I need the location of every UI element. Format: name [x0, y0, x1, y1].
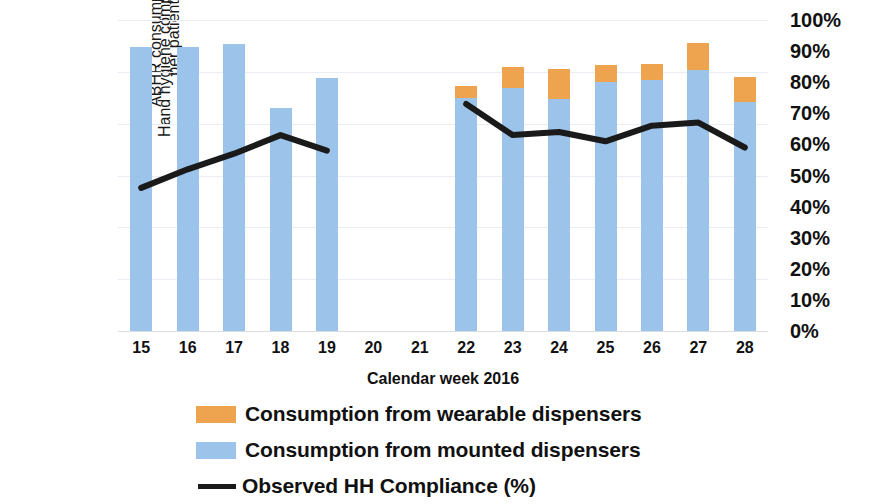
x-axis-tick-label: 25	[584, 340, 628, 356]
chart-legend: Consumption from wearable dispensersCons…	[196, 396, 756, 504]
gridline	[118, 331, 768, 332]
x-axis-tick-label: 22	[444, 340, 488, 356]
legend-item-label: Consumption from wearable dispensers	[245, 402, 642, 426]
x-axis-tick-label: 20	[351, 340, 395, 356]
x-axis-tick-label: 23	[491, 340, 535, 356]
blue-swatch	[196, 442, 236, 459]
right-axis-tick-label: 10%	[790, 290, 862, 310]
legend-item: Consumption from mounted dispensers	[196, 432, 756, 468]
orange-swatch	[196, 406, 236, 423]
legend-item: Observed HH Compliance (%)	[196, 468, 756, 504]
black-line-swatch	[198, 484, 236, 489]
x-axis-tick-label: 21	[398, 340, 442, 356]
right-axis-tick-label: 80%	[790, 72, 862, 92]
right-axis-tick-label: 0%	[790, 321, 862, 341]
compliance-line-series	[118, 20, 768, 331]
right-axis-tick-label: 20%	[790, 259, 862, 279]
x-axis-tick-label: 19	[305, 340, 349, 356]
x-axis-title: Calendar week 2016	[118, 370, 768, 388]
right-axis-tick-label: 60%	[790, 134, 862, 154]
plot-area	[118, 20, 768, 331]
right-axis-tick-label: 90%	[790, 41, 862, 61]
compliance-line-path	[141, 135, 327, 188]
right-axis-tick-label: 30%	[790, 228, 862, 248]
legend-item-label: Observed HH Compliance (%)	[242, 474, 536, 498]
right-axis-tick-label: 40%	[790, 197, 862, 217]
chart-container: ABHR consumption in ml per patient entry…	[0, 0, 882, 504]
x-axis-tick-label: 18	[259, 340, 303, 356]
legend-item-label: Consumption from mounted dispensers	[245, 438, 641, 462]
x-axis-tick-label: 24	[537, 340, 581, 356]
compliance-line-path	[466, 104, 745, 148]
x-axis-tick-label: 16	[166, 340, 210, 356]
x-axis-tick-label: 28	[723, 340, 767, 356]
x-axis-tick-label: 17	[212, 340, 256, 356]
right-axis-tick-label: 50%	[790, 166, 862, 186]
right-axis-tick-label: 100%	[790, 10, 862, 30]
right-axis-tick-label: 70%	[790, 103, 862, 123]
legend-item: Consumption from wearable dispensers	[196, 396, 756, 432]
x-axis-tick-label: 26	[630, 340, 674, 356]
x-axis-tick-label: 15	[119, 340, 163, 356]
x-axis-tick-label: 27	[676, 340, 720, 356]
